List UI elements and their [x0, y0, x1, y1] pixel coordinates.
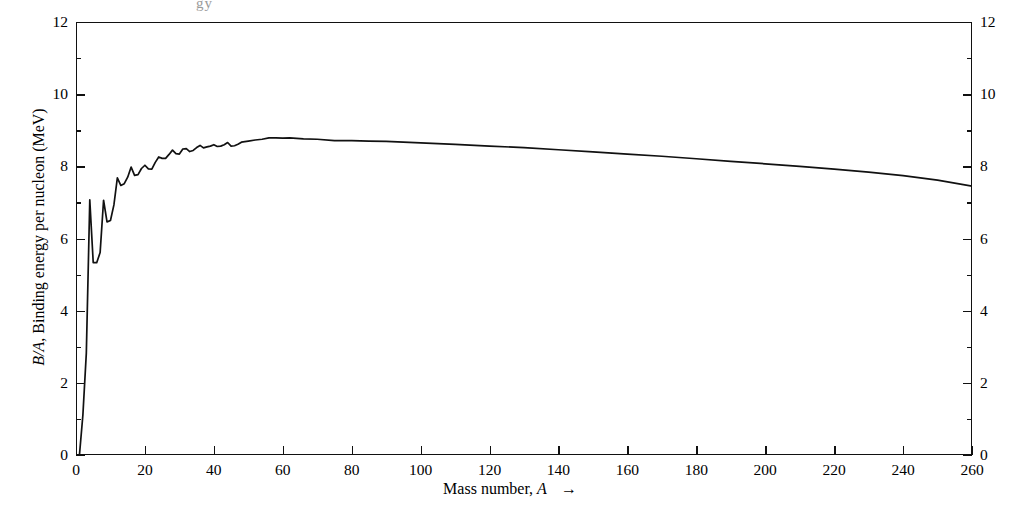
- y-axis-title: B/A, Binding energy per nucleon (MeV): [30, 22, 48, 452]
- x-axis-title: Mass number, A→: [380, 480, 640, 498]
- y-tick-left-2: [76, 383, 85, 384]
- y-minor-tick-left-5: [76, 275, 81, 276]
- y-tick-left-6: [76, 239, 85, 240]
- y-tick-right-8: [963, 166, 972, 167]
- x-tick-140: [558, 446, 559, 455]
- x-tick-260: [972, 446, 973, 455]
- x-tick-200: [765, 446, 766, 455]
- y-tick-left-10: [76, 94, 85, 95]
- x-tick-180: [696, 446, 697, 455]
- y-minor-tick-right-3: [967, 347, 972, 348]
- x-axis-title-text: Mass number,: [443, 480, 537, 497]
- y-tick-left-4: [76, 311, 85, 312]
- x-tick-160: [627, 446, 628, 455]
- x-tick-label-200: 200: [735, 462, 795, 478]
- y-tick-label-right-2: 2: [980, 375, 1010, 391]
- binding-energy-curve: [76, 22, 972, 455]
- x-tick-label-80: 80: [322, 462, 382, 478]
- y-minor-tick-left-7: [76, 202, 81, 203]
- x-tick-label-260: 260: [942, 462, 1002, 478]
- y-minor-tick-left-11: [76, 58, 81, 59]
- x-tick-240: [903, 446, 904, 455]
- y-tick-label-right-10: 10: [980, 86, 1010, 102]
- y-tick-label-right-4: 4: [980, 303, 1010, 319]
- y-axis-title-symbol: B/A: [30, 342, 47, 366]
- y-tick-left-12: [76, 22, 85, 23]
- x-tick-label-100: 100: [391, 462, 451, 478]
- y-tick-left-8: [76, 166, 85, 167]
- x-tick-0: [76, 446, 77, 455]
- x-tick-220: [834, 446, 835, 455]
- x-axis-title-symbol: A: [537, 480, 547, 497]
- x-tick-100: [421, 446, 422, 455]
- x-tick-label-180: 180: [666, 462, 726, 478]
- x-tick-label-0: 0: [46, 462, 106, 478]
- y-tick-label-right-12: 12: [980, 14, 1010, 30]
- y-tick-left-0: [76, 455, 85, 456]
- y-minor-tick-left-9: [76, 130, 81, 131]
- x-tick-20: [145, 446, 146, 455]
- y-tick-label-right-8: 8: [980, 158, 1010, 174]
- x-tick-label-160: 160: [597, 462, 657, 478]
- y-minor-tick-right-5: [967, 275, 972, 276]
- x-axis-arrow-icon: →: [561, 480, 577, 497]
- binding-energy-chart: gy 0204060801001201401601802002202402600…: [0, 0, 1010, 510]
- y-minor-tick-right-11: [967, 58, 972, 59]
- x-tick-120: [490, 446, 491, 455]
- y-minor-tick-right-1: [967, 419, 972, 420]
- x-tick-label-140: 140: [528, 462, 588, 478]
- x-tick-label-120: 120: [460, 462, 520, 478]
- y-tick-right-12: [963, 22, 972, 23]
- x-tick-label-20: 20: [115, 462, 175, 478]
- y-minor-tick-left-3: [76, 347, 81, 348]
- y-tick-right-10: [963, 94, 972, 95]
- x-tick-40: [214, 446, 215, 455]
- y-minor-tick-left-1: [76, 419, 81, 420]
- y-tick-label-right-0: 0: [980, 447, 1010, 463]
- y-minor-tick-right-7: [967, 202, 972, 203]
- x-tick-label-60: 60: [253, 462, 313, 478]
- y-tick-right-2: [963, 383, 972, 384]
- y-tick-label-right-6: 6: [980, 231, 1010, 247]
- x-tick-60: [283, 446, 284, 455]
- x-tick-label-40: 40: [184, 462, 244, 478]
- x-tick-label-240: 240: [873, 462, 933, 478]
- y-tick-right-4: [963, 311, 972, 312]
- y-tick-right-0: [963, 455, 972, 456]
- x-tick-label-220: 220: [804, 462, 864, 478]
- x-tick-80: [352, 446, 353, 455]
- top-cropped-artifact: gy: [196, 0, 213, 12]
- y-tick-right-6: [963, 239, 972, 240]
- y-minor-tick-right-9: [967, 130, 972, 131]
- y-axis-title-text: , Binding energy per nucleon (MeV): [30, 108, 47, 341]
